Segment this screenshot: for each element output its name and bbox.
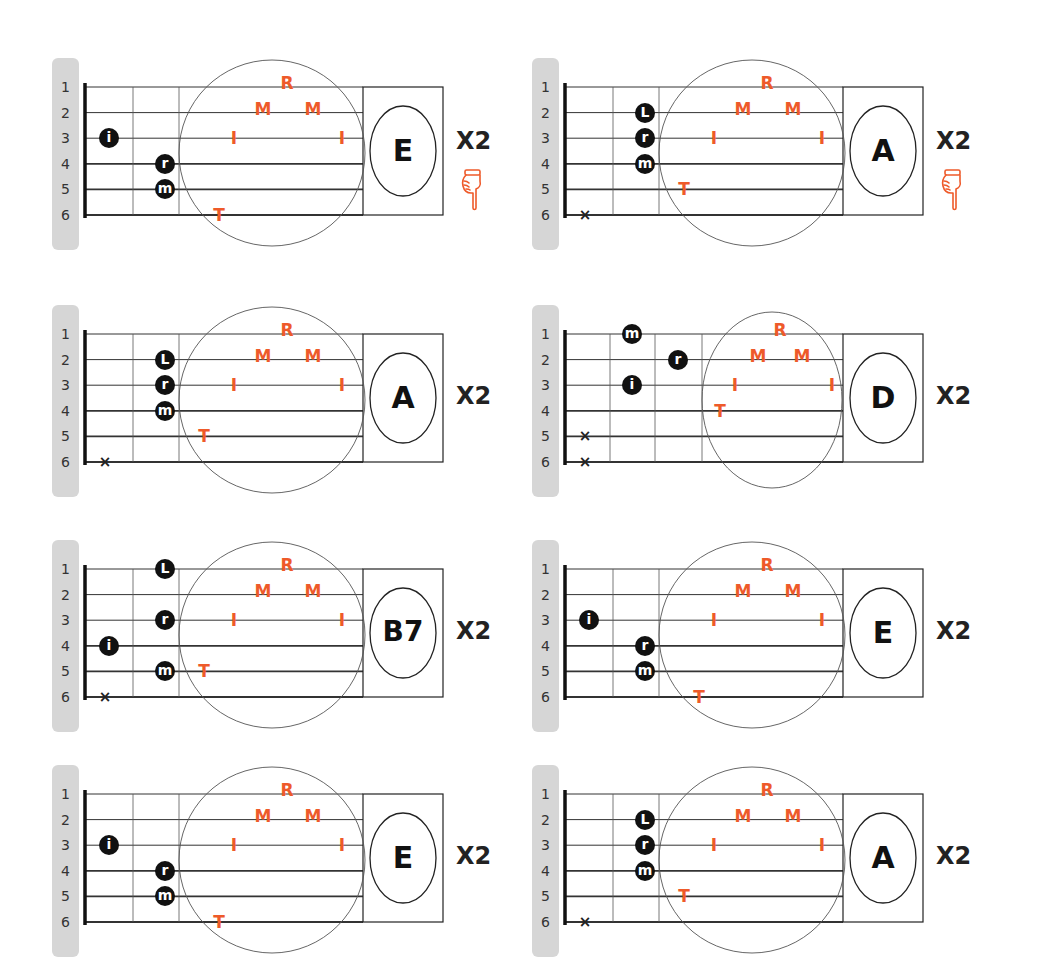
pluck-letter-i: I: [339, 377, 345, 394]
pluck-letter-i: I: [711, 837, 717, 854]
pluck-letter-m: M: [255, 582, 272, 599]
chord-name-label: B7: [363, 615, 443, 648]
pointing-hand-down-icon: [460, 169, 486, 211]
pluck-letter-t: T: [213, 207, 225, 224]
finger-dot-i: i: [622, 375, 642, 395]
pluck-letter-i: I: [339, 130, 345, 147]
chord-diagram-d-4: 123456DX2××mriTIMRMI: [532, 305, 1002, 515]
pluck-letter-m: M: [785, 100, 802, 117]
pluck-letter-i: I: [711, 612, 717, 629]
chord-diagram-a-8: 123456AX2×LrmTIMRMI: [532, 765, 1002, 967]
repeat-count-label: X2: [936, 842, 971, 870]
pluck-letter-t: T: [213, 914, 225, 931]
pluck-letter-i: I: [339, 837, 345, 854]
pluck-letter-r: R: [280, 782, 293, 799]
pluck-letter-t: T: [678, 888, 690, 905]
pluck-letter-t: T: [714, 402, 726, 419]
muted-string-marker: ×: [579, 455, 592, 470]
finger-dot-i: i: [99, 128, 119, 148]
repeat-count-label: X2: [936, 127, 971, 155]
pluck-letter-m: M: [794, 347, 811, 364]
pluck-letter-m: M: [305, 347, 322, 364]
pluck-letter-i: I: [231, 130, 237, 147]
chord-diagram-e-7: 123456EX2irmTIMRMI: [52, 765, 522, 967]
finger-dot-L: L: [635, 810, 655, 830]
chord-diagram-b7-5: 123456B7X2×LrimTIMRMI: [52, 540, 522, 750]
pluck-letter-m: M: [255, 100, 272, 117]
pluck-letter-i: I: [829, 377, 835, 394]
finger-dot-r: r: [155, 861, 175, 881]
finger-dot-i: i: [99, 636, 119, 656]
pluck-letter-r: R: [280, 75, 293, 92]
finger-dot-r: r: [635, 636, 655, 656]
repeat-count-label: X2: [936, 382, 971, 410]
muted-string-marker: ×: [579, 208, 592, 223]
finger-dot-r: r: [668, 350, 688, 370]
chord-name-label: E: [363, 840, 443, 875]
finger-dot-L: L: [155, 350, 175, 370]
chord-name-label: E: [843, 615, 923, 650]
pluck-letter-r: R: [280, 557, 293, 574]
pluck-letter-m: M: [785, 807, 802, 824]
repeat-count-label: X2: [456, 382, 491, 410]
finger-dot-m: m: [155, 179, 175, 199]
finger-dot-r: r: [155, 375, 175, 395]
chord-diagram-a-2: 123456AX2×LrmTIMRMI: [532, 58, 1002, 268]
pluck-letter-m: M: [735, 582, 752, 599]
muted-string-marker: ×: [579, 915, 592, 930]
finger-dot-L: L: [155, 559, 175, 579]
pluck-letter-m: M: [255, 347, 272, 364]
pluck-letter-i: I: [231, 612, 237, 629]
chord-name-label: A: [363, 380, 443, 415]
pluck-letter-i: I: [732, 377, 738, 394]
finger-dot-r: r: [635, 128, 655, 148]
pluck-letter-i: I: [819, 612, 825, 629]
muted-string-marker: ×: [579, 429, 592, 444]
finger-dot-L: L: [635, 103, 655, 123]
muted-string-marker: ×: [99, 690, 112, 705]
fretboard-grid: [532, 305, 1002, 515]
finger-dot-m: m: [155, 401, 175, 421]
chord-diagram-e-6: 123456EX2irmTIMRMI: [532, 540, 1002, 750]
chord-diagram-e-1: 123456EX2irmTIMRMI: [52, 58, 522, 268]
pluck-letter-i: I: [819, 837, 825, 854]
chord-name-label: A: [843, 133, 923, 168]
pluck-letter-m: M: [785, 582, 802, 599]
chord-name-label: E: [363, 133, 443, 168]
pluck-letter-r: R: [760, 75, 773, 92]
pluck-letter-i: I: [711, 130, 717, 147]
pluck-letter-i: I: [231, 377, 237, 394]
pluck-letter-m: M: [305, 807, 322, 824]
muted-string-marker: ×: [99, 455, 112, 470]
finger-dot-m: m: [622, 324, 642, 344]
pluck-letter-t: T: [198, 428, 210, 445]
pluck-letter-m: M: [305, 582, 322, 599]
finger-dot-i: i: [579, 610, 599, 630]
finger-dot-m: m: [635, 661, 655, 681]
pluck-letter-i: I: [819, 130, 825, 147]
finger-dot-m: m: [635, 154, 655, 174]
finger-dot-r: r: [155, 610, 175, 630]
finger-dot-m: m: [155, 886, 175, 906]
repeat-count-label: X2: [456, 842, 491, 870]
pluck-letter-m: M: [305, 100, 322, 117]
pluck-letter-i: I: [339, 612, 345, 629]
pluck-letter-t: T: [678, 181, 690, 198]
repeat-count-label: X2: [456, 127, 491, 155]
pluck-letter-t: T: [198, 663, 210, 680]
pluck-letter-m: M: [750, 347, 767, 364]
finger-dot-m: m: [635, 861, 655, 881]
pluck-letter-i: I: [231, 837, 237, 854]
finger-dot-r: r: [635, 835, 655, 855]
pluck-letter-m: M: [735, 807, 752, 824]
pluck-letter-m: M: [255, 807, 272, 824]
chord-name-label: D: [843, 380, 923, 415]
finger-dot-r: r: [155, 154, 175, 174]
finger-dot-m: m: [155, 661, 175, 681]
pointing-hand-down-icon: [940, 169, 966, 211]
pluck-letter-m: M: [735, 100, 752, 117]
pluck-letter-r: R: [760, 782, 773, 799]
pluck-letter-r: R: [280, 322, 293, 339]
chord-diagram-a-3: 123456AX2×LrmTIMRMI: [52, 305, 522, 515]
pluck-letter-t: T: [693, 689, 705, 706]
